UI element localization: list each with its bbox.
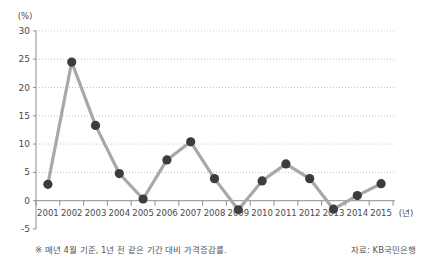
data-point-2005	[139, 194, 148, 203]
data-point-2011	[281, 159, 290, 168]
x-tick-label: 2001	[37, 208, 59, 218]
x-tick-label: 2010	[251, 208, 273, 218]
y-tick-label: 20	[19, 83, 31, 93]
y-axis-unit-label: (%)	[18, 11, 33, 21]
x-tick-label: 2012	[299, 208, 321, 218]
x-tick-label: 2006	[156, 208, 178, 218]
data-point-2012	[305, 174, 314, 183]
chart-svg: 302520151050-520012002200320042005200620…	[0, 0, 422, 238]
y-tick-label: 30	[19, 26, 31, 36]
chart-panel: 302520151050-520012002200320042005200620…	[0, 0, 422, 269]
x-tick-label: 2002	[61, 208, 83, 218]
x-tick-label: 2003	[85, 208, 107, 218]
series-line	[48, 62, 381, 210]
y-tick-label: 15	[19, 111, 30, 121]
data-point-2015	[377, 179, 386, 188]
data-point-2008	[210, 174, 219, 183]
data-point-2001	[43, 180, 52, 189]
data-point-2002	[67, 57, 76, 66]
y-tick-label: 0	[24, 196, 30, 206]
data-point-2010	[258, 176, 267, 185]
x-axis-unit-label: (년)	[399, 208, 414, 218]
data-point-2007	[186, 137, 195, 146]
chart-footnote: ※ 매년 4월 기준, 1년 전 같은 기간 대비 가격증감률.	[35, 243, 227, 255]
y-tick-label: 10	[19, 139, 31, 149]
data-point-2006	[162, 155, 171, 164]
x-tick-label: 2007	[180, 208, 202, 218]
data-point-2014	[353, 191, 362, 200]
y-tick-label: 5	[24, 167, 30, 177]
x-tick-label: 2011	[275, 208, 297, 218]
x-tick-label: 2013	[323, 208, 345, 218]
x-tick-label: 2014	[346, 208, 368, 218]
y-tick-label: 25	[19, 54, 30, 64]
x-tick-label: 2008	[204, 208, 226, 218]
data-point-2004	[115, 169, 124, 178]
x-tick-label: 2004	[108, 208, 130, 218]
x-tick-label: 2005	[132, 208, 154, 218]
y-tick-label: -5	[21, 224, 30, 234]
data-point-2003	[91, 121, 100, 130]
chart-source: 자료: KB국민은행	[351, 243, 416, 255]
x-tick-label: 2009	[227, 208, 249, 218]
x-tick-label: 2015	[370, 208, 392, 218]
